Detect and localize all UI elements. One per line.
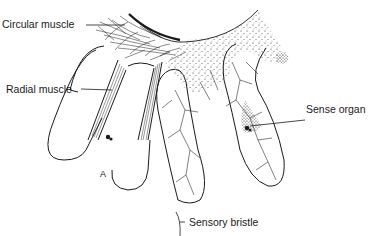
sense-organs [106,126,252,141]
label-radial-muscle: Radial muscle [6,84,72,95]
label-sensory-bristle: Sensory bristle [189,217,258,228]
sensory-bristle [176,212,185,236]
panel-letter: A [100,170,106,179]
label-circular-muscle: Circular muscle [2,19,74,30]
label-sense-organ: Sense organ [306,104,366,115]
diagram-canvas [0,0,371,236]
